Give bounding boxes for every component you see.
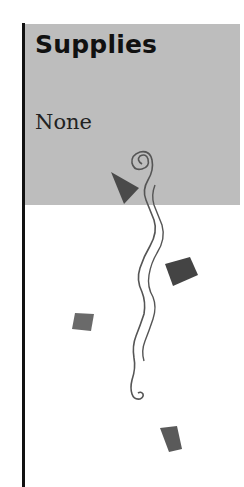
vine-ornament-icon: [0, 0, 244, 487]
